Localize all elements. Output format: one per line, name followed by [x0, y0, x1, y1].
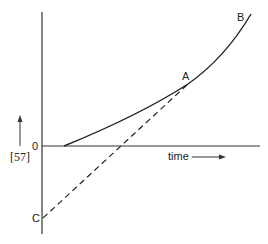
diagram-canvas: A B C 0 time [57]: [0, 0, 268, 244]
point-label-a: A: [182, 70, 190, 82]
dashed-tangent-line: [43, 84, 188, 218]
point-label-c: C: [32, 212, 40, 224]
point-label-b: B: [237, 11, 244, 23]
x-axis-arrow-icon: [192, 155, 226, 160]
origin-label: 0: [32, 140, 38, 152]
y-axis-arrow-icon: [18, 115, 23, 146]
x-axis-label: time: [168, 150, 189, 162]
y-axis-label: [57]: [10, 150, 30, 164]
solid-curve: [64, 14, 251, 146]
